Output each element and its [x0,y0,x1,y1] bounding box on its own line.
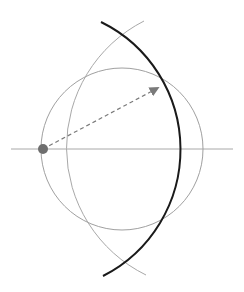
gray-arc [67,21,146,275]
origin-point [38,144,48,154]
diagram-canvas [0,0,244,292]
dashed-vector-arrow [43,89,156,149]
